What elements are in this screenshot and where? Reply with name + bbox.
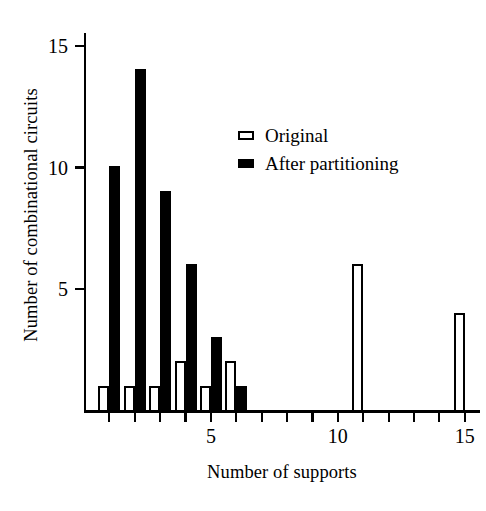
x-axis-tick-label: 15 (455, 426, 475, 446)
bar-original-x15 (454, 313, 465, 410)
x-axis-tick (311, 411, 313, 422)
x-axis-tick (108, 411, 110, 422)
legend-item: After partitioning (238, 152, 399, 174)
x-axis-tick (159, 411, 161, 422)
bar-original-x5 (200, 386, 211, 410)
bar-original-x6 (225, 361, 236, 410)
bar-original-x3 (149, 386, 160, 410)
x-axis-tick (261, 411, 263, 422)
y-axis-tick-label: 10 (48, 157, 68, 177)
hollow-square-icon (238, 131, 254, 140)
x-axis-line (84, 410, 480, 413)
x-axis-tick (438, 411, 440, 422)
x-axis-tick (413, 411, 415, 422)
x-axis-tick-label: 5 (206, 426, 216, 446)
x-axis-tick (388, 411, 390, 422)
bar-original-x4 (175, 361, 186, 410)
bar-after-partitioning-x1 (109, 166, 120, 410)
x-axis-tick (210, 411, 212, 422)
bar-after-partitioning-x2 (135, 69, 146, 410)
legend-item-label: Original (265, 126, 328, 145)
plot-area: 51015 51015 (84, 30, 480, 413)
x-axis-tick (134, 411, 136, 422)
legend-item-label: After partitioning (265, 154, 399, 173)
y-axis-title: Number of combinational circuits (14, 0, 48, 430)
x-axis-tick-label: 10 (328, 426, 348, 446)
bar-after-partitioning-x3 (160, 191, 171, 410)
x-axis-tick (286, 411, 288, 422)
bar-original-x11 (352, 264, 363, 410)
y-axis-tick-label: 5 (58, 279, 68, 299)
chart-legend: OriginalAfter partitioning (238, 124, 399, 174)
filled-square-icon (238, 159, 254, 168)
x-axis-tick (337, 411, 339, 422)
legend-item: Original (238, 124, 399, 146)
x-axis-tick (362, 411, 364, 422)
x-axis-tick (235, 411, 237, 422)
bar-original-x1 (98, 386, 109, 410)
x-axis-title: Number of supports (84, 462, 480, 483)
bar-chart-figure: Number of combinational circuits 51015 5… (0, 0, 486, 511)
bar-original-x2 (124, 386, 135, 410)
bar-after-partitioning-x6 (236, 386, 247, 410)
x-axis-tick (184, 411, 186, 422)
bars-layer (84, 30, 480, 410)
x-axis-tick (464, 411, 466, 422)
y-axis-tick-label: 15 (48, 35, 68, 55)
bar-after-partitioning-x4 (186, 264, 197, 410)
bar-after-partitioning-x5 (211, 337, 222, 410)
